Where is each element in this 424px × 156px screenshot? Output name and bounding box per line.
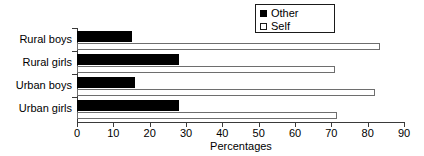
x-axis-tick-label: 90 — [392, 128, 416, 139]
y-axis-category-label: Urban girls — [0, 103, 72, 114]
legend-item-other: Other — [260, 7, 334, 19]
x-axis-tick-label: 10 — [101, 128, 125, 139]
x-axis-tick-label: 50 — [247, 128, 271, 139]
x-axis-tick-label: 40 — [210, 128, 234, 139]
empty-square-icon — [260, 23, 267, 30]
bar-other — [77, 100, 179, 111]
x-axis-tick-label: 80 — [356, 128, 380, 139]
legend-item-self: Self — [260, 20, 334, 32]
x-axis-tick-label: 0 — [65, 128, 89, 139]
bar-self — [77, 43, 380, 50]
x-axis-tick-label: 30 — [174, 128, 198, 139]
chart-legend: Other Self — [255, 4, 335, 33]
y-axis-tick — [72, 74, 77, 75]
bar-self — [77, 89, 375, 96]
x-axis-tick-label: 20 — [138, 128, 162, 139]
y-axis-tick — [72, 51, 77, 52]
bar-other — [77, 77, 135, 88]
x-axis-line — [77, 122, 405, 123]
legend-label-self: Self — [271, 21, 290, 32]
x-axis-tick-label: 70 — [319, 128, 343, 139]
x-axis-title: Percentages — [77, 141, 405, 152]
bar-self — [77, 112, 337, 119]
y-axis-tick — [72, 28, 77, 29]
legend-label-other: Other — [271, 8, 299, 19]
x-axis-tick-label: 60 — [283, 128, 307, 139]
y-axis-tick — [72, 97, 77, 98]
bar-other — [77, 54, 179, 65]
filled-square-icon — [260, 10, 267, 17]
y-axis-category-label: Urban boys — [0, 80, 72, 91]
bar-other — [77, 31, 132, 42]
bar-chart: Other Self 0102030405060708090Rural boys… — [0, 0, 424, 156]
y-axis-category-label: Rural girls — [0, 57, 72, 68]
y-axis-category-label: Rural boys — [0, 34, 72, 45]
bar-self — [77, 66, 335, 73]
